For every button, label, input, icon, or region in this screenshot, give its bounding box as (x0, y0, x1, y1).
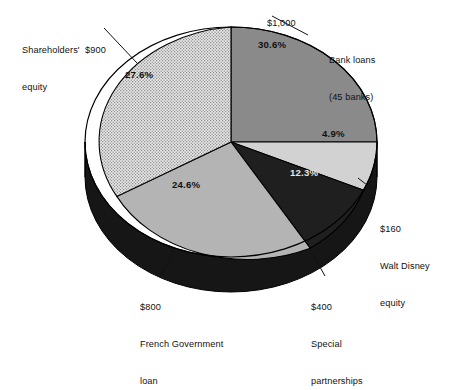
slice-percent-special-partnerships: 12.3% (290, 167, 318, 178)
slice-percent-shareholders-equity: 27.6% (125, 69, 153, 80)
slice-percent-bank-loans: 30.6% (258, 39, 286, 50)
leader-line-shareholders (104, 28, 137, 63)
callout-walt-disney-equity-amount: $160 (380, 223, 430, 235)
callout-shareholders-equity: Shareholders' $900 equity (22, 19, 106, 118)
callout-special-partnerships-amount: $400 (311, 301, 363, 313)
callout-special-partnerships-line2: Special (311, 338, 363, 350)
callout-bank-loans-line2: (45 banks) (329, 91, 375, 103)
callout-bank-loans: $1,000 Bank loans (45 banks) (329, 17, 375, 129)
callout-shareholders-equity-line1: Shareholders' $900 (22, 44, 106, 56)
slice-percent-french-government-loan: 24.6% (172, 179, 200, 190)
callout-walt-disney-equity: $160 Walt Disney equity (380, 198, 430, 334)
callout-special-partnerships: $400 Special partnerships (311, 276, 363, 390)
callout-french-government-loan: $800 French Government loan (140, 276, 223, 390)
callout-french-government-loan-line2: French Government (140, 338, 223, 350)
callout-shareholders-equity-line2: equity (22, 81, 106, 93)
callout-walt-disney-equity-line3: equity (380, 297, 430, 309)
callout-special-partnerships-line3: partnerships (311, 375, 363, 387)
callout-walt-disney-equity-line2: Walt Disney (380, 260, 430, 272)
callout-french-government-loan-amount: $800 (140, 301, 223, 313)
callout-bank-loans-amount: $1,000 (267, 17, 296, 29)
callout-bank-loans-line1: Bank loans (329, 54, 375, 66)
slice-percent-walt-disney-equity: 4.9% (322, 128, 345, 139)
callout-french-government-loan-line3: loan (140, 375, 223, 387)
